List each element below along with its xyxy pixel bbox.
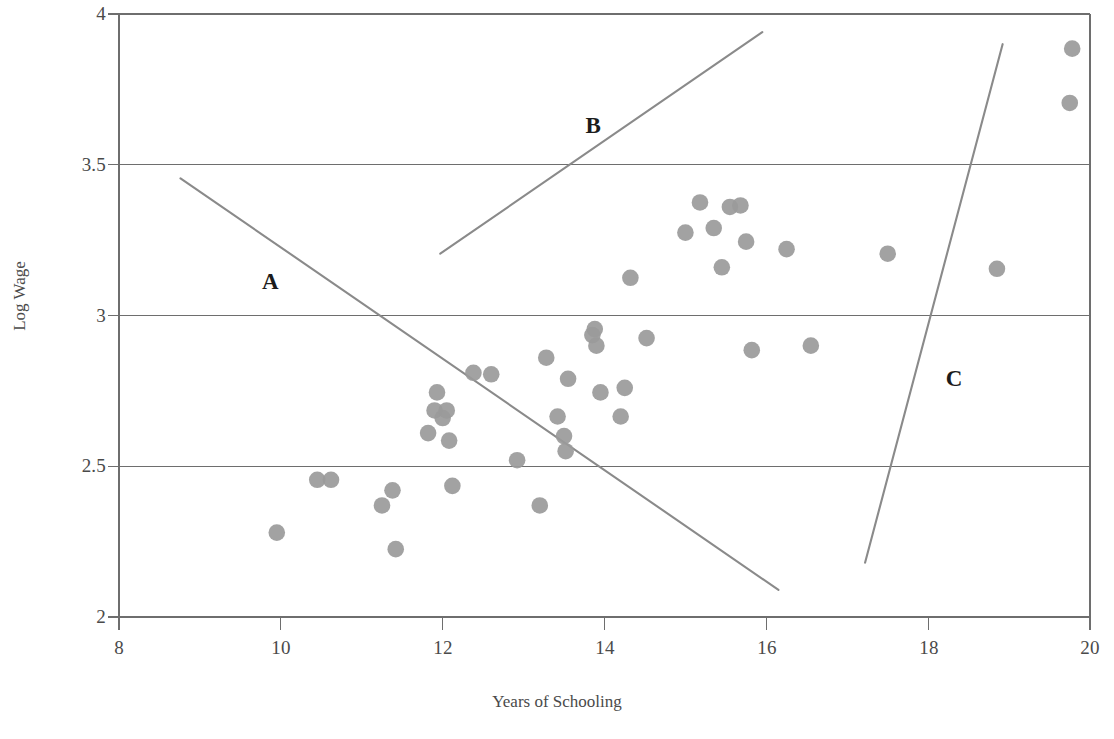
scatter-point	[592, 384, 609, 401]
annotation-label-a: A	[262, 269, 279, 295]
scatter-point	[438, 402, 455, 419]
scatter-point	[738, 233, 755, 250]
scatter-point	[483, 366, 500, 383]
y-tick-label: 3.5	[60, 154, 106, 176]
scatter-point	[616, 380, 633, 397]
scatter-point	[588, 337, 605, 354]
scatter-point	[509, 452, 526, 469]
x-axis-title: Years of Schooling	[492, 692, 622, 712]
scatter-point	[879, 245, 896, 262]
scatter-point	[586, 321, 603, 338]
annotation-label-c: C	[946, 366, 963, 392]
scatter-point	[465, 364, 482, 381]
scatter-point	[420, 425, 437, 442]
y-tick-label: 3	[60, 305, 106, 327]
scatter-point	[622, 270, 639, 287]
scatter-point	[638, 330, 655, 347]
scatter-point	[714, 259, 731, 276]
y-tick-label: 4	[60, 3, 106, 25]
scatter-point	[531, 497, 548, 514]
scatter-point	[677, 224, 694, 241]
figure-container: 4 3.5 3 2.5 2 8 10 12 14 16 18 20 Log Wa…	[0, 0, 1114, 739]
scatter-point	[549, 408, 566, 425]
scatter-point	[444, 478, 461, 495]
scatter-point	[323, 472, 340, 489]
y-tick-label: 2.5	[60, 455, 106, 477]
annotation-line-c	[865, 44, 1003, 563]
scatter-point	[692, 194, 709, 211]
scatter-point	[1061, 95, 1078, 112]
x-tick-label: 18	[919, 637, 938, 659]
scatter-point	[557, 443, 574, 460]
scatter-point	[612, 408, 629, 425]
scatter-point	[556, 428, 573, 445]
x-tick-label: 14	[595, 637, 614, 659]
x-tick-label: 16	[757, 637, 776, 659]
scatter-point	[429, 384, 446, 401]
scatter-point	[560, 371, 577, 388]
annotation-label-b: B	[585, 113, 600, 139]
scatter-point	[778, 241, 795, 258]
x-tick-label: 12	[433, 637, 452, 659]
scatter-point	[441, 432, 458, 449]
scatter-point	[1064, 40, 1081, 57]
figure-caption	[0, 730, 1114, 739]
scatter-point	[989, 260, 1006, 277]
y-axis-title: Log Wage	[10, 261, 30, 331]
scatter-point	[384, 482, 401, 499]
y-tick-label: 2	[60, 606, 106, 628]
x-tick-label: 20	[1080, 637, 1099, 659]
x-tick-label: 8	[114, 637, 124, 659]
scatter-point	[538, 349, 555, 366]
scatter-point	[732, 197, 749, 214]
scatter-point	[268, 524, 285, 541]
scatter-point	[374, 497, 391, 514]
scatter-point	[387, 541, 404, 558]
scatter-point	[803, 337, 820, 354]
scatter-point	[743, 342, 760, 359]
scatter-point	[705, 220, 722, 237]
x-tick-label: 10	[271, 637, 290, 659]
